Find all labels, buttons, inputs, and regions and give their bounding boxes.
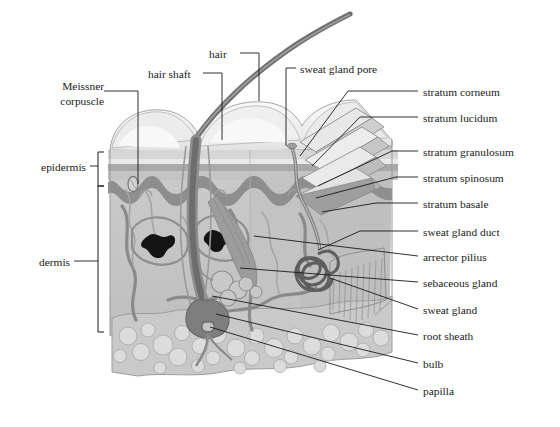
label-sebaceous-gland: sebaceous gland [423, 276, 497, 291]
label-root-sheath: root sheath [423, 329, 473, 344]
skin-cross-section-illustration [0, 0, 560, 427]
label-hair: hair [209, 47, 227, 62]
meissner-corpuscle [128, 177, 138, 192]
label-stratum-granulosum: stratum granulosum [423, 145, 514, 160]
label-meissner-line2: corpuscle [0, 94, 104, 109]
label-papilla: papilla [423, 384, 454, 399]
label-stratum-lucidum: stratum lucidum [423, 111, 497, 126]
label-epidermis: epidermis [0, 160, 86, 175]
label-bulb: bulb [423, 357, 443, 372]
label-stratum-basale: stratum basale [423, 197, 488, 212]
label-sweat-gland: sweat gland [423, 303, 477, 318]
label-stratum-corneum: stratum corneum [423, 85, 500, 100]
label-hair-shaft: hair shaft [148, 67, 191, 82]
label-meissner-line1: Meissner [0, 79, 104, 94]
skin-diagram: Meissner corpuscle epidermis dermis hair… [0, 0, 560, 427]
label-dermis: dermis [0, 255, 70, 270]
label-arrector-pilius: arrector pilius [423, 250, 487, 265]
label-sweat-gland-pore: sweat gland pore [300, 62, 377, 77]
label-stratum-spinosum: stratum spinosum [423, 171, 504, 186]
measure-brackets [98, 152, 104, 332]
label-meissner-corpuscle: Meissner corpuscle [0, 79, 104, 108]
dermis-bracket [98, 186, 104, 332]
label-sweat-gland-duct: sweat gland duct [423, 225, 500, 240]
epidermis-bracket [98, 152, 104, 186]
